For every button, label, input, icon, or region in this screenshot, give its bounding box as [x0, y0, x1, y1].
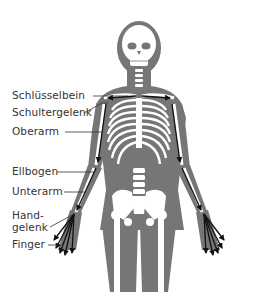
label-schultergelenk: Schultergelenk	[12, 107, 92, 118]
label-finger: Finger	[12, 239, 45, 250]
skeleton-diagram: Schlüsselbein Schultergelenk Oberarm Ell…	[0, 0, 277, 292]
label-handgelenk-1: Hand-	[12, 210, 44, 221]
label-schluesselbein: Schlüsselbein	[12, 90, 85, 101]
label-ellbogen: Ellbogen	[12, 166, 58, 177]
label-oberarm: Oberarm	[12, 126, 59, 137]
label-unterarm: Unterarm	[12, 186, 63, 197]
label-handgelenk-2: gelenk	[12, 222, 48, 233]
